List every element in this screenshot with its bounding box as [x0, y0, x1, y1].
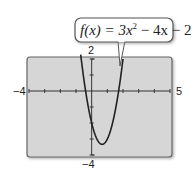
callout-rest: − 4x − 2: [137, 22, 191, 38]
function-label: f(x) = 3x2 − 4x − 2: [80, 21, 192, 39]
x-min-label: −4: [13, 86, 26, 97]
y-max-label: 2: [88, 45, 94, 56]
x-max-label: 5: [176, 86, 182, 97]
callout-fx: f(x) = 3x: [80, 22, 133, 38]
y-min-label: −4: [82, 159, 95, 170]
